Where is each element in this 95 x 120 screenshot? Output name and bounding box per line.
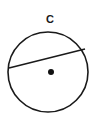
circle-label: C <box>46 13 54 25</box>
circle-diagram: C <box>0 0 95 120</box>
chord-line <box>9 49 85 68</box>
center-point <box>48 69 54 75</box>
